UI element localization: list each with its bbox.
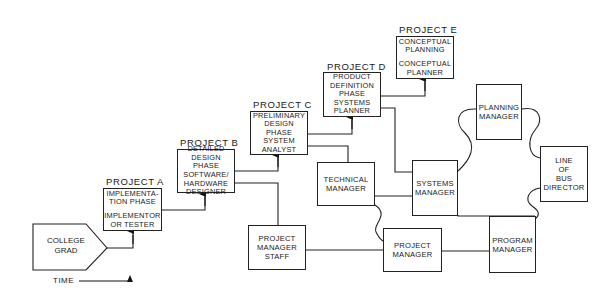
program-manager-box: PROGRAM MANAGER (489, 216, 536, 273)
role-text: ANALYST (262, 146, 297, 155)
systems-manager-box: SYSTEMS MANAGER (412, 160, 458, 216)
project-manager-box: PROJECT MANAGER (383, 228, 442, 272)
role-text: STAFF (265, 252, 289, 261)
role-text: DESIGNER (186, 188, 226, 197)
role-text: MANAGER (479, 112, 519, 121)
project-c-box: PRELIMINARY DESIGN PHASE SYSTEM ANALYST (250, 111, 308, 155)
role-text: PLANNER (407, 69, 443, 78)
phase-text: PLANNING (405, 46, 444, 55)
project-c-label: PROJECT C (253, 99, 312, 110)
role-text: OR TESTER (111, 221, 155, 230)
role-text: PLANNING (479, 103, 519, 112)
project-a-label: PROJECT A (106, 176, 164, 187)
time-label: TIME (53, 276, 74, 285)
role-text: OF (559, 165, 570, 174)
role-text: PROJECT (394, 241, 431, 250)
phase-text: DESIGN PHASE (178, 154, 234, 171)
role-text: MANAGER (393, 250, 433, 259)
role-text: MANAGER (326, 184, 366, 193)
role-text: MANAGER (493, 245, 533, 254)
role-text: SYSTEMS (416, 179, 454, 188)
role-text: DIRECTOR (543, 183, 584, 192)
role-text: PLANNER (334, 107, 370, 116)
role-text: PROJECT (259, 234, 296, 243)
role-text: MANAGER (257, 243, 297, 252)
project-manager-staff-box: PROJECT MANAGER STAFF (248, 225, 306, 270)
role-text: TECHNICAL (324, 175, 369, 184)
role-text: PROGRAM (492, 236, 533, 245)
project-b-box: DETAILED DESIGN PHASE SOFTWARE/ HARDWARE… (177, 149, 235, 193)
college-grad-label: COLLEGE GRAD (40, 236, 92, 255)
role-text: LINE (555, 156, 573, 165)
line-of-bus-director-box: LINE OF BUS DIRECTOR (540, 146, 588, 202)
project-a-box: IMPLEMENTA- TION PHASE IMPLEMENTOR OR TE… (103, 188, 162, 231)
phase-text: TION PHASE (109, 198, 156, 207)
technical-manager-box: TECHNICAL MANAGER (317, 162, 375, 206)
role-text: MANAGER (415, 188, 455, 197)
role-text: BUS (556, 174, 572, 183)
college-grad-line2: GRAD (40, 246, 92, 256)
college-grad-line1: COLLEGE (40, 236, 92, 246)
project-d-label: PROJECT D (327, 61, 386, 72)
project-e-box: CONCEPTUAL PLANNING CONCEPTUAL PLANNER (396, 36, 454, 79)
planning-manager-box: PLANNING MANAGER (476, 84, 522, 140)
project-d-box: PRODUCT DEFINITION PHASE SYSTEMS PLANNER (323, 72, 381, 117)
project-e-label: PROJECT E (399, 24, 458, 35)
